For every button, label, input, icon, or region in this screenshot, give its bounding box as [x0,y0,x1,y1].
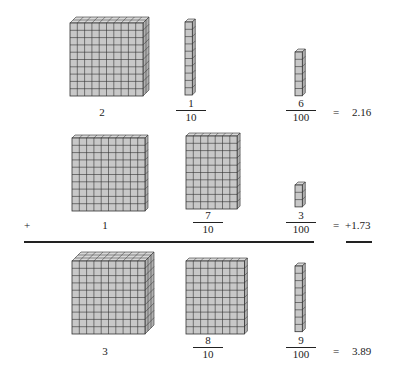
sum-rule-left [24,241,314,243]
flat-block-2 [70,17,150,97]
unit-cubes-6 [295,49,307,97]
hundredths-fraction-row1: 6100 [284,98,318,123]
value-row3: 3.89 [352,345,371,357]
ones-label-row2: 1 [85,219,125,231]
flat-block-1 [72,135,152,215]
equals-sign-row2: = [333,219,339,231]
value-row2: +1.73 [345,219,370,231]
plus-operator: + [24,219,30,231]
sum-rule-right [346,241,372,243]
rods-block-8 [186,258,256,338]
unit-cubes-3 [295,182,307,206]
equals-sign-row3: = [333,345,339,357]
rods-block-7 [186,133,246,215]
hundredths-fraction-row3: 9100 [284,335,318,360]
ones-label-row3: 3 [85,345,125,357]
hundredths-fraction-row2: 3100 [284,210,318,235]
tenths-fraction-row2: 710 [191,210,225,235]
rod-block-1 [185,19,197,97]
tenths-fraction-row1: 110 [174,98,208,123]
ones-label-row1: 2 [82,106,122,118]
flat-block-3 [72,252,154,334]
unit-cubes-9 [295,263,307,333]
equals-sign-row1: = [333,106,339,118]
value-row1: 2.16 [352,106,371,118]
tenths-fraction-row3: 810 [191,335,225,360]
